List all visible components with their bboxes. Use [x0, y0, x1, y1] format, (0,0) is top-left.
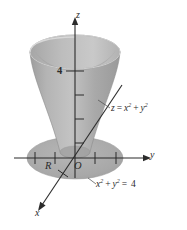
circle-eq-plus: +: [105, 179, 110, 189]
surface-eq-plus: +: [133, 103, 138, 113]
circle-eq-equals: =: [122, 179, 127, 189]
axis-label-x: x: [35, 208, 39, 218]
diagram-canvas: [0, 0, 187, 230]
z-tick-label-4: 4: [57, 66, 62, 77]
surface-eq-lhs: z: [111, 103, 115, 113]
figure-paraboloid-region: z y x 4 R O z=x2+y2 x2+y2=4: [0, 0, 187, 230]
axis-label-z: z: [76, 10, 80, 20]
circle-eq-rhs: 4: [131, 179, 136, 189]
surface-equation-label: z=x2+y2: [111, 104, 148, 114]
surface-eq-equals: =: [117, 103, 122, 113]
axis-label-y: y: [150, 150, 154, 160]
circle-eq-term2-exp: 2: [117, 178, 120, 184]
surface-eq-term1-exp: 2: [128, 102, 131, 108]
circle-equation-label: x2+y2=4: [96, 180, 138, 190]
circle-eq-term1-exp: 2: [100, 178, 103, 184]
circle-label-leader: [88, 178, 96, 184]
region-label-R: R: [45, 161, 51, 172]
origin-label-O: O: [74, 161, 82, 172]
surface-eq-term2-exp: 2: [145, 102, 148, 108]
